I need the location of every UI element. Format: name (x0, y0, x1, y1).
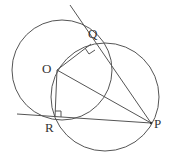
right-angle-marker-Q (85, 48, 95, 54)
label-O: O (42, 62, 51, 75)
diagram-figure (0, 0, 169, 154)
label-P: P (154, 117, 161, 130)
label-R: R (45, 121, 54, 134)
label-Q: Q (88, 27, 97, 40)
geometry-diagram: Q O R P (0, 0, 169, 154)
right-angle-marker-R (55, 111, 61, 117)
segment-OQ (57, 44, 91, 70)
point-P-dot (150, 122, 152, 124)
segment-OP (57, 70, 151, 123)
tangent-line-QP (70, 5, 151, 123)
